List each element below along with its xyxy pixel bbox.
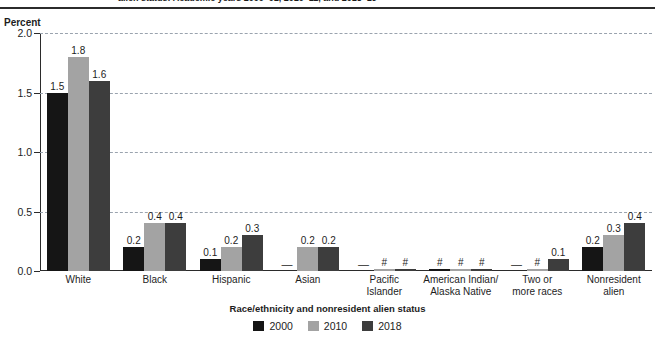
legend-label: 2018 [378,320,401,332]
bar-slot: 0.2 [318,33,339,271]
category-label-line: Alaska Native [423,286,500,298]
x-axis-title: Race/ethnicity and nonresident alien sta… [0,303,655,314]
bar-slot: 0.4 [165,33,186,271]
plot-area: 0.00.51.01.52.0 1.51.81.60.20.40.40.10.2… [40,33,652,271]
bar[interactable] [548,259,569,271]
bar-slot: — [353,33,374,271]
title-divider-rule [0,7,655,9]
bar-group: 0.20.30.4 [576,33,653,271]
bar-value-label: # [381,257,387,268]
bar-slot: 0.1 [200,33,221,271]
bar[interactable] [47,93,68,272]
category-label-line: American Indian/ [423,274,500,286]
bar[interactable] [68,57,89,271]
legend-label: 2000 [269,320,292,332]
bar-value-label: 0.1 [203,247,217,258]
bar-value-label: 1.6 [92,69,106,80]
bar[interactable] [221,247,242,271]
bar-value-label: 0.2 [322,235,336,246]
bar[interactable] [624,223,645,271]
bar-value-label: 0.2 [586,235,600,246]
bar-group: —0.20.2 [270,33,347,271]
bar[interactable] [395,269,416,271]
bar-value-label: 0.4 [628,211,642,222]
legend-item[interactable]: 2010 [308,320,347,332]
bar[interactable] [318,247,339,271]
bar-slot: 0.1 [548,33,569,271]
category-label: Nonresidentalien [576,274,653,297]
y-axis-tick-label: 0.5 [17,206,32,218]
legend-swatch [362,321,373,331]
bar-slot: # [429,33,450,271]
bar[interactable] [527,269,548,271]
category-label: Two ormore races [499,274,576,297]
bar-value-label: 1.5 [50,81,64,92]
legend-item[interactable]: 2000 [253,320,292,332]
category-label: White [40,274,117,297]
bar-slot: 0.2 [297,33,318,271]
category-label: PacificIslander [346,274,423,297]
bar-group: ### [423,33,500,271]
bar-group: —#0.1 [499,33,576,271]
bar[interactable] [450,269,471,271]
bar[interactable] [374,269,395,271]
category-label-line: Two or [499,274,576,286]
bar-slot: 0.3 [603,33,624,271]
category-label: Black [117,274,194,297]
chart-page: alien status: Academic years 2000–01, 20… [0,0,655,340]
bar[interactable] [242,235,263,271]
bar[interactable] [200,259,221,271]
y-axis-tick-label: 1.0 [17,146,32,158]
category-label: Hispanic [193,274,270,297]
category-label: Asian [270,274,347,297]
bar-group: —## [346,33,423,271]
y-axis-tick-label: 2.0 [17,27,32,39]
bar[interactable] [603,235,624,271]
category-label-line: White [40,274,117,286]
bar[interactable] [123,247,144,271]
bar-value-label: 0.2 [301,235,315,246]
bar-group: 1.51.81.6 [40,33,117,271]
y-axis-tick-label: 0.0 [17,265,32,277]
bar[interactable] [297,247,318,271]
category-label-line: Hispanic [193,274,270,286]
bar[interactable] [582,247,603,271]
bar-value-label: — [358,258,369,270]
bar-value-label: # [437,257,443,268]
bar-groups-layer: 1.51.81.60.20.40.40.10.20.3—0.20.2—#####… [40,33,652,271]
bar-slot: # [450,33,471,271]
bar[interactable] [429,269,450,271]
bar-slot: # [374,33,395,271]
bar-value-label: # [458,257,464,268]
bar-value-label: 0.3 [245,223,259,234]
y-axis-tick [34,271,40,272]
bar[interactable] [165,223,186,271]
category-labels: WhiteBlackHispanicAsianPacificIslanderAm… [40,274,652,297]
bar-group: 0.10.20.3 [193,33,270,271]
bar[interactable] [89,81,110,271]
bar-slot: 0.2 [582,33,603,271]
bar-value-label: 0.2 [224,235,238,246]
cropped-title-text: alien status: Academic years 2000–01, 20… [118,0,377,3]
bar-slot: 0.3 [242,33,263,271]
category-label: American Indian/Alaska Native [423,274,500,297]
bar-slot: 0.4 [624,33,645,271]
bar-value-label: 0.4 [148,211,162,222]
bar-value-label: 1.8 [71,45,85,56]
bar-slot: 1.5 [47,33,68,271]
category-label-line: alien [576,286,653,298]
bar-slot: 0.2 [221,33,242,271]
bar[interactable] [471,269,492,271]
bar-value-label: 0.4 [169,211,183,222]
bar-slot: 1.6 [89,33,110,271]
category-label-line: Black [117,274,194,286]
bar-slot: # [395,33,416,271]
bar-slot: 1.8 [68,33,89,271]
bar-slot: — [506,33,527,271]
legend-item[interactable]: 2018 [362,320,401,332]
bar[interactable] [144,223,165,271]
bar-value-label: # [479,257,485,268]
bar-value-label: # [534,257,540,268]
category-label-line: more races [499,286,576,298]
bar-slot: 0.4 [144,33,165,271]
